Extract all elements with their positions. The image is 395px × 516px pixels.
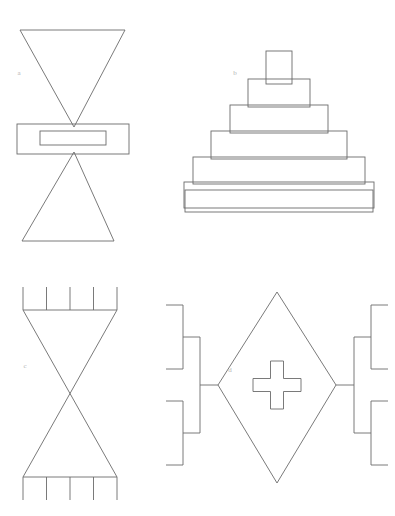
- panel-d-diamond: [218, 292, 336, 483]
- panel-a-top-inverted-triangle: [20, 30, 125, 127]
- panel-b-step-5: [193, 157, 365, 184]
- panel-b-step-4: [211, 131, 347, 159]
- panel-a-label: a: [17, 69, 21, 77]
- panel-d: d: [166, 292, 388, 483]
- panel-b-label: b: [233, 69, 237, 77]
- panel-b-step-3: [230, 105, 328, 133]
- panel-d-label: d: [228, 366, 232, 374]
- figure-canvas: a b: [0, 0, 395, 516]
- panel-b: b: [184, 51, 374, 212]
- panel-a-outer-rectangle: [17, 124, 129, 154]
- panel-c-label: c: [23, 362, 26, 370]
- geometric-figure-svg: a b: [0, 0, 395, 516]
- panel-d-cross-icon: [253, 361, 301, 409]
- panel-b-step-6: [184, 182, 374, 208]
- panel-a-bottom-triangle: [22, 152, 114, 241]
- panel-a: a: [17, 30, 129, 241]
- panel-c: c: [23, 287, 117, 500]
- panel-a-inner-rectangle: [40, 131, 106, 145]
- panel-b-base-rectangle: [185, 190, 373, 212]
- panel-b-step-2: [248, 79, 310, 107]
